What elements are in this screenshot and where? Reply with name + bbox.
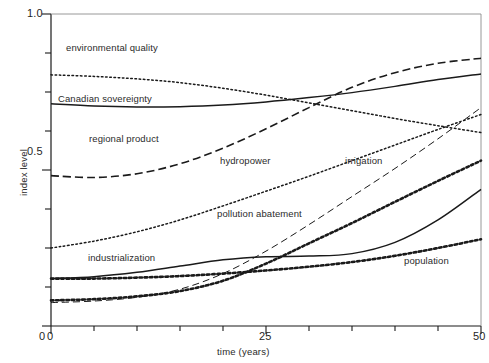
series-label-industrialization: industrialization bbox=[88, 252, 155, 263]
x-tick-label-max: 50 bbox=[473, 330, 486, 342]
y-tick-label-top: 1.0 bbox=[27, 7, 43, 19]
y-tick-label-zero: 0 bbox=[39, 330, 45, 342]
y-axis-ticks bbox=[42, 14, 51, 326]
series-label-irrigation: irrigation bbox=[345, 155, 382, 166]
y-axis-title: index level bbox=[18, 149, 29, 196]
series-label-hydropower: hydropower bbox=[220, 155, 271, 166]
chart-plot-area bbox=[0, 0, 489, 363]
y-tick-label-mid: 0.5 bbox=[27, 145, 43, 157]
x-axis-title: time (years) bbox=[217, 346, 270, 357]
series-label-canadian-sovereignty: Canadian sovereignty bbox=[58, 93, 152, 104]
series-label-regional-product: regional product bbox=[89, 133, 159, 144]
series-label-pollution-abatement: pollution abatement bbox=[217, 208, 302, 219]
series-label-population: population bbox=[404, 255, 449, 266]
x-tick-label-mid: 25 bbox=[259, 330, 272, 342]
x-tick-label-zero: 0 bbox=[47, 330, 53, 342]
series-label-environmental-quality: environmental quality bbox=[66, 42, 158, 53]
chart-figure: 1.0 0.5 0 0 25 50 time (years) index lev… bbox=[0, 0, 489, 363]
